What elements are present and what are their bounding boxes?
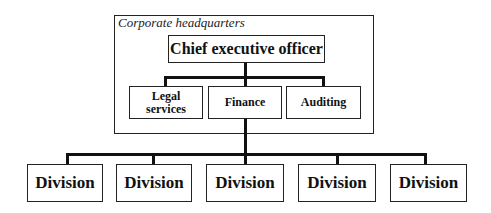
connector-division-5	[424, 153, 427, 164]
division-box-3: Division	[206, 164, 284, 202]
division-box-4: Division	[298, 164, 376, 202]
connector-finance-down	[244, 119, 247, 164]
connector-legal	[164, 76, 167, 86]
ceo-label: Chief executive officer	[170, 40, 323, 58]
finance-box: Finance	[208, 86, 282, 119]
division-label: Division	[215, 173, 275, 193]
legal-services-box: Legal services	[129, 86, 203, 119]
division-box-5: Division	[390, 164, 467, 202]
connector-division-2	[152, 153, 155, 164]
division-label: Division	[124, 173, 184, 193]
division-label: Division	[35, 173, 95, 193]
auditing-label: Auditing	[301, 96, 346, 109]
ceo-box: Chief executive officer	[168, 35, 325, 63]
division-box-1: Division	[27, 164, 103, 202]
connector-staff-bus	[164, 76, 324, 79]
corporate-headquarters-label: Corporate headquarters	[118, 15, 245, 31]
division-label: Division	[307, 173, 367, 193]
division-box-2: Division	[116, 164, 192, 202]
connector-ceo-down	[244, 63, 247, 86]
connector-division-1	[66, 153, 69, 164]
connector-division-bus	[66, 153, 427, 156]
auditing-box: Auditing	[286, 86, 361, 119]
division-label: Division	[399, 173, 459, 193]
legal-services-label: Legal services	[146, 90, 186, 116]
finance-label: Finance	[225, 96, 266, 109]
connector-division-4	[336, 153, 339, 164]
connector-auditing	[322, 76, 325, 86]
